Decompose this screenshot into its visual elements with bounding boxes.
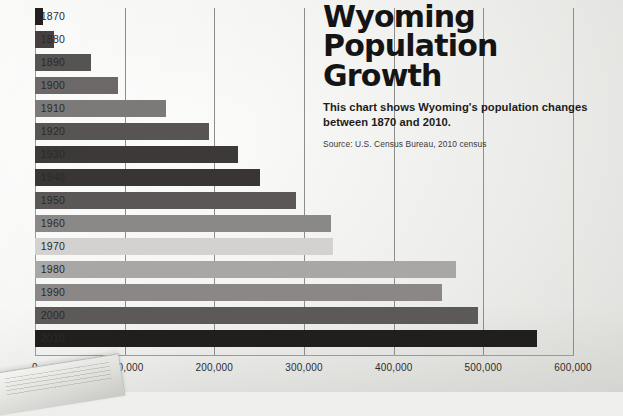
y-axis-label-1910: 1910 [34, 100, 65, 117]
bar-1980 [35, 261, 456, 278]
x-axis-label-200000: 200,000 [196, 362, 234, 373]
page-title: Wyoming Population Growth [323, 2, 613, 90]
y-axis-label-1940: 1940 [34, 169, 65, 186]
x-axis-label-400000: 400,000 [375, 362, 413, 373]
bar-2000 [35, 307, 478, 324]
bar-row [35, 284, 442, 301]
bar-1940 [35, 169, 260, 186]
bar-row [35, 330, 537, 347]
y-axis-label-1990: 1990 [34, 284, 65, 301]
title-block: Wyoming Population Growth This chart sho… [323, 2, 613, 149]
chart-description: This chart shows Wyoming's population ch… [323, 100, 595, 130]
bar-1970 [35, 238, 333, 255]
y-axis-label-1900: 1900 [34, 77, 65, 94]
y-axis-label-1880: 1880 [34, 31, 65, 48]
bar-row [35, 238, 333, 255]
y-axis-label-1980: 1980 [34, 261, 65, 278]
x-axis-label-300000: 300,000 [285, 362, 323, 373]
bar-1950 [35, 192, 296, 209]
bar-row [35, 169, 260, 186]
bar-row [35, 307, 478, 324]
chart-source: Source: U.S. Census Bureau, 2010 census [323, 139, 613, 149]
y-axis-label-1950: 1950 [34, 192, 65, 209]
bar-row [35, 146, 238, 163]
y-axis-label-1870: 1870 [34, 8, 65, 25]
bar-row [35, 261, 456, 278]
y-axis-label-1920: 1920 [34, 123, 65, 140]
bar-row [35, 192, 296, 209]
x-axis-label-600000: 600,000 [554, 362, 592, 373]
y-axis-label-2010: 2010 [34, 330, 65, 347]
y-axis-label-1930: 1930 [34, 146, 65, 163]
x-axis-label-500000: 500,000 [465, 362, 503, 373]
bar-1960 [35, 215, 331, 232]
bar-row [35, 215, 331, 232]
bar-2010 [35, 330, 537, 347]
y-axis-label-1960: 1960 [34, 215, 65, 232]
y-axis-label-1970: 1970 [34, 238, 65, 255]
bar-1990 [35, 284, 442, 301]
gridline-300000 [304, 8, 305, 356]
bar-1930 [35, 146, 238, 163]
y-axis-label-2000: 2000 [34, 307, 65, 324]
y-axis-label-1890: 1890 [34, 54, 65, 71]
